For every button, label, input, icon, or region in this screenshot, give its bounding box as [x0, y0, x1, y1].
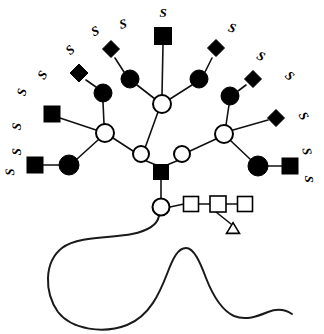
glcnac-right-lower-square[interactable] [282, 158, 298, 174]
sulfate-label-2: S [9, 122, 25, 131]
mannose-right-branch-circle[interactable] [174, 146, 190, 162]
core-open-square-2[interactable] [210, 196, 226, 212]
mannose-top-branch-circle[interactable] [153, 95, 171, 113]
edge-man-top-to-glcnac-t2 [162, 45, 163, 95]
galactose-left-upper-circle[interactable] [94, 84, 112, 102]
core-open-square-3[interactable] [238, 197, 253, 212]
galactose-left-lower-circle[interactable] [59, 155, 79, 175]
mannose-left-branch-circle[interactable] [133, 146, 149, 162]
glycan-diagram-canvas: SSSSSSSSSSSSSSS [0, 0, 324, 334]
core-reducing-circle[interactable] [153, 199, 170, 216]
core-filled-square-glcnac[interactable] [154, 165, 169, 180]
galactose-top-right-circle[interactable] [190, 70, 208, 88]
edge-man-far-left-to-gal-l1 [103, 102, 104, 124]
mannose-far-right-circle[interactable] [215, 125, 233, 143]
sulfate-label-3: S [9, 148, 24, 156]
galactose-right-lower-circle[interactable] [248, 156, 268, 176]
glcnac-top-center-square[interactable] [155, 28, 172, 45]
sulfate-label-9: S [159, 5, 166, 20]
core-open-square-1[interactable] [184, 197, 199, 212]
glcnac-left-lower-square[interactable] [27, 157, 43, 173]
galactose-top-left-circle[interactable] [121, 70, 139, 88]
galactose-right-upper-circle[interactable] [221, 87, 239, 105]
sulfate-label-4: S [2, 168, 17, 176]
glycan-structure-figure: SSSSSSSSSSSSSSS [0, 0, 324, 334]
glcnac-left-middle-square[interactable] [44, 106, 60, 122]
sulfate-label-15: S [302, 175, 317, 182]
mannose-far-left-circle[interactable] [96, 124, 114, 142]
